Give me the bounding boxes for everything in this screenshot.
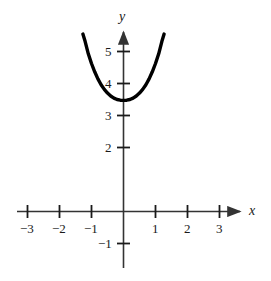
y-tick-label-2: 2	[105, 141, 112, 154]
plot-canvas	[0, 0, 271, 281]
y-tick-label-neg1: −1	[98, 237, 112, 250]
x-tick-label-pos3: 3	[216, 222, 223, 235]
y-tick-label-4: 4	[105, 77, 112, 90]
parabola-figure: −3 −2 −1 1 2 3 5 4 3 2 −1 x y	[0, 0, 271, 281]
x-tick-label-neg2: −2	[52, 222, 66, 235]
x-axis-label: x	[249, 204, 255, 218]
y-axis-label: y	[119, 10, 125, 24]
y-tick-label-3: 3	[105, 109, 112, 122]
x-tick-label-neg3: −3	[20, 222, 34, 235]
x-tick-label-neg1: −1	[84, 222, 98, 235]
x-tick-label-pos2: 2	[184, 222, 191, 235]
x-tick-label-pos1: 1	[152, 222, 159, 235]
y-tick-label-5: 5	[105, 45, 112, 58]
